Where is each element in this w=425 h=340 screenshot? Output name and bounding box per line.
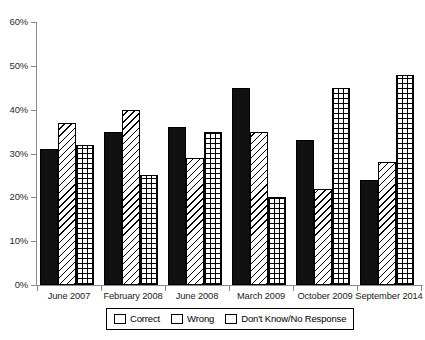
diagonal-hatch-swatch-icon — [171, 314, 183, 324]
legend-item-correct: Correct — [114, 314, 160, 324]
bar-correct-6 — [360, 180, 378, 285]
x-axis-line — [37, 285, 423, 286]
bar-correct-1 — [40, 149, 58, 285]
y-axis-label: 60% — [0, 17, 28, 27]
legend-label: Correct — [130, 314, 160, 324]
bar-dont-know-3 — [204, 132, 222, 285]
y-axis-label: 10% — [0, 236, 28, 246]
bar-wrong-1 — [58, 123, 76, 285]
legend-item-dont-know: Don't Know/No Response — [225, 314, 346, 324]
y-axis-label: 0% — [0, 280, 28, 290]
bar-correct-5 — [296, 140, 314, 285]
bar-dont-know-2 — [140, 175, 158, 285]
bar-wrong-4 — [250, 132, 268, 285]
bar-wrong-2 — [122, 110, 140, 285]
bar-correct-3 — [168, 127, 186, 285]
plot-area — [37, 22, 421, 285]
bar-dont-know-1 — [76, 145, 94, 285]
bar-chart: 0%10%20%30%40%50%60% June 2007February 2… — [0, 0, 425, 340]
bar-correct-2 — [104, 132, 122, 285]
bar-dont-know-5 — [332, 88, 350, 285]
bar-dont-know-6 — [396, 75, 414, 285]
y-axis-label: 30% — [0, 149, 28, 159]
bar-wrong-5 — [314, 189, 332, 285]
y-axis-label: 20% — [0, 192, 28, 202]
chart-legend: CorrectWrongDon't Know/No Response — [106, 308, 354, 330]
bar-wrong-3 — [186, 158, 204, 285]
y-axis-label: 40% — [0, 105, 28, 115]
bar-dont-know-4 — [268, 197, 286, 285]
solid-swatch-icon — [114, 314, 126, 324]
legend-label: Wrong — [187, 314, 214, 324]
x-axis-label-6: September 2014 — [351, 291, 425, 302]
crosshatch-swatch-icon — [225, 314, 237, 324]
legend-label: Don't Know/No Response — [241, 314, 346, 324]
legend-item-wrong: Wrong — [171, 314, 214, 324]
bar-wrong-6 — [378, 162, 396, 285]
y-axis-label: 50% — [0, 61, 28, 71]
bar-correct-4 — [232, 88, 250, 285]
